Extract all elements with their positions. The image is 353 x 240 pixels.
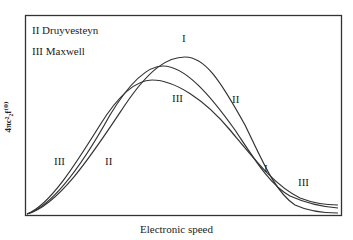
legend-item-maxwell: III Maxwell — [32, 41, 98, 62]
curve-II-druyvesteyn — [27, 57, 338, 214]
curve-label-II-right: II — [232, 93, 239, 105]
legend-item-druyvesteyn: II Druyvesteyn — [32, 20, 98, 41]
curve-label-III-left: III — [54, 155, 65, 167]
legend: II Druyvesteyn III Maxwell — [32, 20, 98, 62]
curve-label-II-left: II — [105, 155, 112, 167]
curve-label-III-center: III — [172, 92, 183, 104]
curve-label-III-right: III — [298, 176, 309, 188]
y-axis-label: 4πc²₂f⁽⁰⁾ — [3, 87, 13, 147]
curve-label-I-right: I — [264, 162, 268, 174]
x-axis-label: Electronic speed — [0, 223, 353, 235]
curve-label-I-top: I — [182, 32, 186, 44]
curve-I — [27, 66, 338, 214]
